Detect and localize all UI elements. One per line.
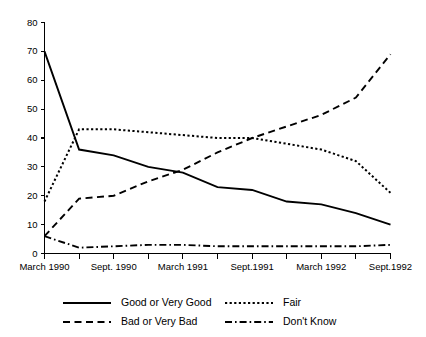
- x-tick-label: March 1991: [158, 261, 208, 272]
- series-line-1: [45, 129, 391, 201]
- y-tick-label: 30: [27, 161, 38, 172]
- y-tick-label: 10: [27, 219, 38, 230]
- legend-label-3: Don't Know: [283, 315, 337, 327]
- chart-legend: Good or Very GoodFairBad or Very BadDon'…: [63, 296, 337, 327]
- series-layer: [45, 51, 391, 247]
- y-tick-label: 50: [27, 103, 38, 114]
- x-tick-label: March 1992: [296, 261, 346, 272]
- y-tick-label: 0: [32, 248, 37, 259]
- y-axis: 01020304050607080: [27, 17, 45, 259]
- y-tick-label: 20: [27, 190, 38, 201]
- y-tick-label: 80: [27, 17, 38, 28]
- x-tick-label: Sept.1992: [369, 261, 412, 272]
- series-line-3: [45, 236, 391, 248]
- x-tick-label: March 1990: [19, 261, 69, 272]
- y-tick-label: 70: [27, 45, 38, 56]
- line-chart: 01020304050607080 March 1990Sept. 1990Ma…: [0, 0, 426, 337]
- legend-label-0: Good or Very Good: [121, 296, 212, 308]
- x-tick-label: Sept. 1990: [91, 261, 137, 272]
- series-line-0: [45, 51, 391, 224]
- legend-label-1: Fair: [283, 296, 302, 308]
- x-tick-label: Sept.1991: [230, 261, 273, 272]
- chart-container: 01020304050607080 March 1990Sept. 1990Ma…: [0, 0, 426, 337]
- y-tick-label: 60: [27, 74, 38, 85]
- y-tick-label: 40: [27, 132, 38, 143]
- x-axis: March 1990Sept. 1990March 1991Sept.1991M…: [19, 254, 412, 272]
- legend-label-2: Bad or Very Bad: [121, 315, 198, 327]
